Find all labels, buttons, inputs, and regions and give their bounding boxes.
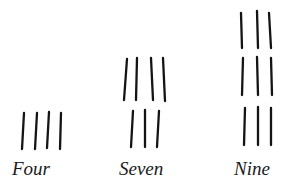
label-four: Four: [12, 159, 50, 178]
group-seven-tally: [124, 58, 165, 147]
label-nine: Nine: [234, 159, 270, 178]
tally-stroke: [35, 113, 37, 149]
tally-stroke: [257, 11, 258, 48]
tally-stroke: [242, 58, 243, 95]
tally-stroke: [269, 13, 271, 48]
tally-stroke: [163, 58, 165, 101]
label-seven: Seven: [119, 159, 163, 178]
tally-stroke: [136, 58, 137, 100]
tally-stroke: [47, 112, 49, 148]
tally-stroke: [131, 111, 133, 147]
tally-stroke: [60, 113, 61, 149]
tally-stroke: [241, 13, 242, 48]
tally-stroke: [157, 111, 159, 147]
tally-stroke: [124, 59, 127, 100]
group-four-tally: [22, 112, 61, 149]
tally-stroke: [22, 113, 24, 149]
tally-stroke: [151, 58, 153, 100]
tally-stroke: [257, 57, 258, 95]
tally-stroke: [271, 58, 272, 95]
tally-stroke: [244, 108, 245, 145]
group-nine-tally: [241, 11, 272, 145]
